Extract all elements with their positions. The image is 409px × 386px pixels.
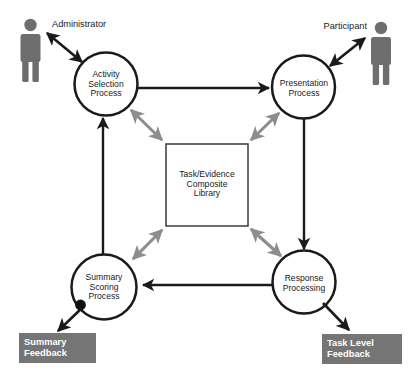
summary-feedback-box[interactable]: [19, 333, 96, 363]
connector-participant-presentation: [330, 38, 365, 66]
connector-summary-to-summary-feedback: [58, 307, 83, 331]
task-level-feedback-box[interactable]: [322, 334, 402, 364]
task-evidence-composite-library-box[interactable]: [166, 144, 248, 226]
diagram-canvas: [0, 0, 409, 386]
connector-response-to-task-level-feedback: [323, 303, 349, 330]
connector-activity-library: [131, 110, 162, 140]
connector-response-library: [251, 229, 281, 256]
presentation-process-circle[interactable]: [272, 56, 335, 119]
participant-figure-icon: [371, 22, 391, 85]
summary-scoring-junction-dot-icon: [75, 300, 86, 311]
connector-presentation-library: [251, 113, 279, 140]
connector-administrator-activity: [47, 33, 82, 62]
activity-selection-process-circle[interactable]: [75, 53, 138, 116]
response-processing-circle[interactable]: [273, 251, 336, 314]
process-diagram: Administrator Participant Activity Selec…: [0, 0, 409, 386]
connector-summary-library: [133, 230, 162, 259]
administrator-figure-icon: [21, 19, 41, 82]
